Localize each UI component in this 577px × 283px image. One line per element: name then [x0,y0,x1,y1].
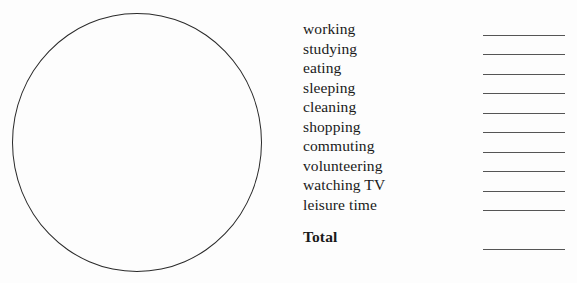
legend-item-label: shopping [303,117,483,137]
total-label: Total [303,227,483,247]
legend-spacer [303,214,565,227]
worksheet: working studying eating sleeping cleanin… [0,0,577,283]
list-item: volunteering [303,156,565,176]
list-item: eating [303,58,565,78]
list-item: leisure time [303,195,565,215]
legend-item-label: studying [303,39,483,59]
list-item: shopping [303,117,565,137]
answer-line[interactable] [483,93,565,94]
legend-item-label: commuting [303,136,483,156]
list-item: commuting [303,136,565,156]
total-answer-line[interactable] [483,249,565,250]
answer-line[interactable] [483,113,565,114]
legend-item-label: watching TV [303,175,483,195]
legend-item-label: working [303,19,483,39]
total-row: Total [303,227,565,247]
answer-line[interactable] [483,191,565,192]
list-item: watching TV [303,175,565,195]
answer-line[interactable] [483,210,565,211]
answer-line[interactable] [483,152,565,153]
answer-line[interactable] [483,74,565,75]
legend-item-label: eating [303,58,483,78]
pie-chart-area [0,0,290,283]
answer-line[interactable] [483,54,565,55]
empty-pie-chart-circle[interactable] [12,13,262,272]
list-item: cleaning [303,97,565,117]
answer-line[interactable] [483,171,565,172]
legend-item-label: cleaning [303,97,483,117]
answer-line[interactable] [483,35,565,36]
answer-line[interactable] [483,132,565,133]
list-item: working [303,19,565,39]
legend-item-label: leisure time [303,195,483,215]
legend-item-label: volunteering [303,156,483,176]
legend-item-label: sleeping [303,78,483,98]
list-item: studying [303,39,565,59]
list-item: sleeping [303,78,565,98]
legend-list: working studying eating sleeping cleanin… [303,19,565,247]
